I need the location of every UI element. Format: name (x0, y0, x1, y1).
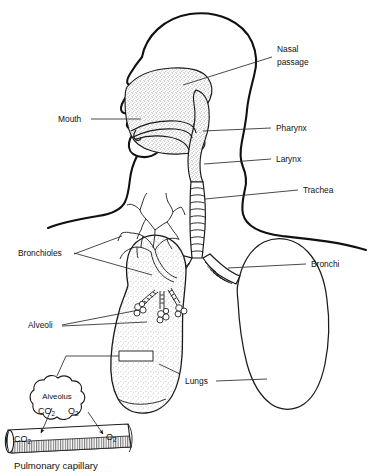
pulmonary-capillary-label: Pulmonary capillary (14, 460, 98, 471)
nasal-passage-label-line2: passage (277, 57, 309, 67)
respiratory-system-diagram: Alveolus CO2 O2 CO2 O2 Nasal passage Mou… (0, 0, 374, 476)
trachea-label: Trachea (303, 185, 334, 195)
alveolus-label: Alveolus (42, 392, 72, 401)
pharynx-label: Pharynx (276, 123, 308, 133)
alveoli-label: Alveoli (28, 320, 53, 330)
larynx-label: Larynx (276, 154, 302, 164)
lung-callout-window (119, 351, 153, 361)
trachea (190, 182, 205, 258)
lungs-label: Lungs (185, 376, 208, 386)
bronchi-label: Bronchi (311, 259, 340, 269)
diagram-canvas: Alveolus CO2 O2 CO2 O2 Nasal passage Mou… (0, 0, 374, 476)
mouth-label: Mouth (58, 114, 82, 124)
bronchioles-label: Bronchioles (18, 248, 62, 258)
nasal-passage-label-line1: Nasal (277, 44, 299, 54)
alveolus-detail: Alveolus CO2 O2 (30, 376, 85, 420)
